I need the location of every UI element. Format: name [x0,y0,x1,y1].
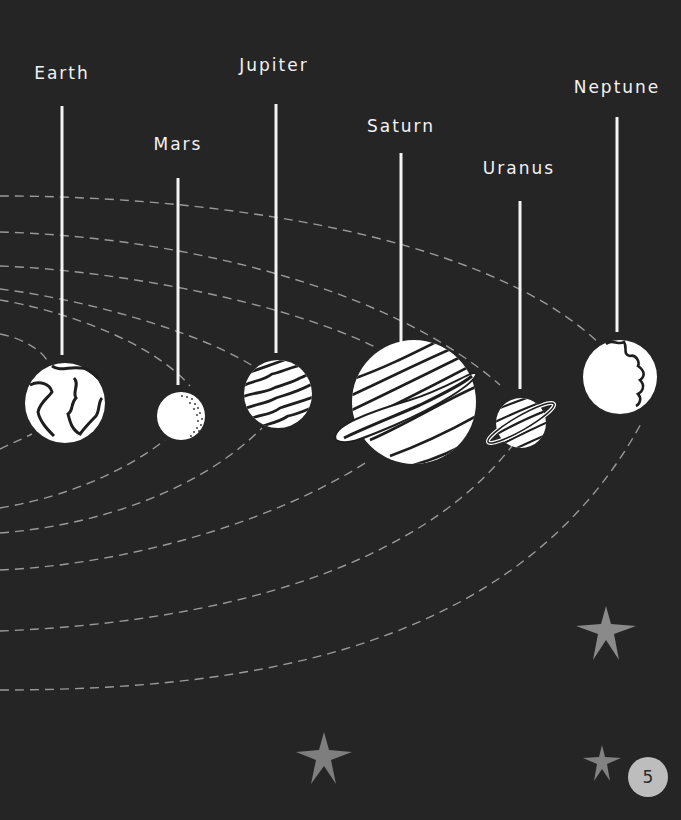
planet-label-neptune: Neptune [574,77,661,97]
orbit-mars-lower [0,440,165,508]
orbit-uranus-lower [0,446,512,631]
orbit-saturn-lower [0,460,370,570]
orbit-mars [0,300,190,386]
mars-planet-icon [157,392,205,440]
planet-label-uranus: Uranus [483,158,555,178]
orbit-neptune-lower [0,420,643,690]
orbit-paths [0,196,643,690]
stars [296,606,636,784]
orbit-saturn [0,266,375,347]
star-icon [296,732,352,784]
orbit-earth [0,334,48,362]
star-icon [583,745,621,781]
hanging-strings [62,104,617,389]
planet-label-jupiter: Jupiter [239,55,308,75]
book-page: Earth Mars Jupiter Saturn Uranus Neptune… [0,0,681,820]
planet-label-saturn: Saturn [367,116,435,136]
orbit-jupiter [0,289,262,372]
uranus-planet-icon [485,392,558,450]
saturn-planet-icon [335,340,480,466]
orbit-earth-lower [0,434,32,449]
planet-label-earth: Earth [34,63,90,83]
orbit-neptune [0,196,600,344]
orbit-jupiter-lower [0,428,262,533]
solar-system-illustration [0,0,681,820]
star-icon [576,606,636,660]
jupiter-planet-icon [240,350,316,428]
neptune-planet-icon [583,340,657,414]
planet-label-mars: Mars [154,134,203,154]
earth-planet-icon [25,363,105,443]
page-number-badge: 5 [628,757,668,797]
